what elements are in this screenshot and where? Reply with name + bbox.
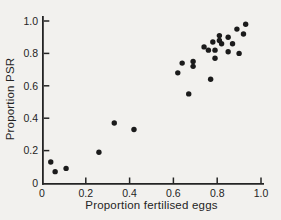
data-point xyxy=(208,77,213,82)
x-tick-label: 0.2 xyxy=(78,187,93,199)
data-point xyxy=(236,51,241,56)
data-point xyxy=(217,33,222,38)
data-point xyxy=(206,47,211,52)
y-tick-label: 0 xyxy=(32,177,38,189)
y-tick-label: 1.0 xyxy=(23,15,38,27)
x-axis-title: Proportion fertilised eggs xyxy=(42,200,261,212)
x-tick-label: 0.4 xyxy=(122,187,137,199)
data-point xyxy=(112,120,117,125)
data-point xyxy=(225,35,230,40)
data-point xyxy=(234,26,239,31)
data-point xyxy=(190,59,195,64)
data-point xyxy=(175,70,180,75)
y-tick-label: 0.8 xyxy=(23,47,38,59)
data-point xyxy=(201,44,206,49)
data-point xyxy=(225,49,230,54)
data-point xyxy=(212,56,217,61)
data-point xyxy=(63,166,68,171)
x-tick-label: 0 xyxy=(39,187,45,199)
data-point xyxy=(230,41,235,46)
data-point xyxy=(48,159,53,164)
data-point xyxy=(243,22,248,27)
x-tick-label: 0.8 xyxy=(210,187,225,199)
data-point xyxy=(241,31,246,36)
data-point xyxy=(186,91,191,96)
data-point xyxy=(131,127,136,132)
data-point xyxy=(52,169,57,174)
x-tick-label: 1.0 xyxy=(254,187,269,199)
data-point xyxy=(210,39,215,44)
data-point xyxy=(190,64,195,69)
plot-area: 00.20.40.60.81.000.20.40.60.81.0 xyxy=(0,0,281,220)
y-tick-label: 0.4 xyxy=(23,112,38,124)
data-point xyxy=(179,60,184,65)
y-tick-label: 0.6 xyxy=(23,80,38,92)
scatter-figure: 00.20.40.60.81.000.20.40.60.81.0 Proport… xyxy=(0,0,281,220)
y-tick-label: 0.2 xyxy=(23,144,38,156)
data-point xyxy=(96,150,101,155)
data-point xyxy=(219,41,224,46)
y-axis-title: Proportion PSR xyxy=(5,58,17,141)
x-tick-label: 0.6 xyxy=(166,187,181,199)
data-point xyxy=(212,47,217,52)
